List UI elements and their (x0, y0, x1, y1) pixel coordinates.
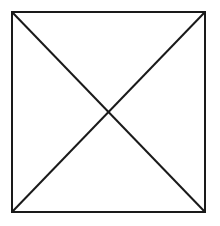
square-with-diagonals-diagram (0, 0, 220, 226)
